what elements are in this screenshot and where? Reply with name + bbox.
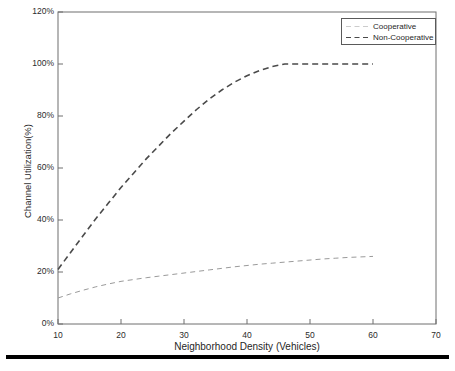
legend-line-sample-cooperative [346,26,370,27]
chart-legend: Cooperative Non-Cooperative [341,18,436,45]
legend-item-non-cooperative: Non-Cooperative [346,32,432,43]
x-tick-label: 30 [164,330,204,340]
series-line-cooperative [58,256,373,298]
x-tick-label: 60 [353,330,393,340]
plot-frame [58,12,436,324]
chart-figure: 0%20%40%60%80%100%120% 10203040506070 Ch… [0,0,455,371]
y-axis-title: Channel Utilization(%) [22,124,33,218]
y-tick-label: 80% [37,110,54,120]
y-tick-label: 40% [37,214,54,224]
x-tick-label: 40 [227,330,267,340]
legend-label-non-cooperative: Non-Cooperative [373,33,433,43]
x-tick-label: 70 [416,330,455,340]
x-tick-label: 50 [290,330,330,340]
y-tick-label: 0% [42,318,54,328]
plot-canvas [0,0,455,371]
y-tick-label: 100% [32,58,54,68]
legend-line-sample-non-cooperative [346,37,370,38]
x-tick-label: 20 [101,330,141,340]
series-line-non-cooperative [58,64,373,269]
legend-item-cooperative: Cooperative [346,21,432,32]
y-tick-label: 60% [37,162,54,172]
y-tick-label: 120% [32,6,54,16]
footer-rule [6,355,449,359]
legend-label-cooperative: Cooperative [373,22,416,32]
x-axis-title: Neighborhood Density (Vehicles) [58,341,436,352]
x-tick-label: 10 [38,330,78,340]
y-tick-label: 20% [37,266,54,276]
